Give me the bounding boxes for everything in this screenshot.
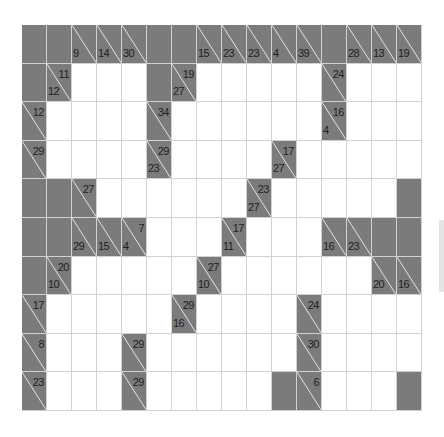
entry-cell[interactable] — [247, 257, 272, 296]
entry-cell[interactable] — [247, 334, 272, 373]
entry-cell[interactable] — [397, 102, 422, 141]
entry-cell[interactable] — [72, 334, 97, 373]
entry-cell[interactable] — [272, 334, 297, 373]
entry-cell[interactable] — [247, 372, 272, 411]
entry-cell[interactable] — [347, 334, 372, 373]
entry-cell[interactable] — [97, 102, 122, 141]
entry-cell[interactable] — [97, 372, 122, 411]
entry-cell[interactable] — [97, 179, 122, 218]
entry-cell[interactable] — [222, 334, 247, 373]
entry-cell[interactable] — [47, 295, 72, 334]
entry-cell[interactable] — [347, 141, 372, 180]
entry-cell[interactable] — [72, 257, 97, 296]
entry-cell[interactable] — [322, 179, 347, 218]
entry-cell[interactable] — [247, 141, 272, 180]
entry-cell[interactable] — [222, 141, 247, 180]
entry-cell[interactable] — [122, 102, 147, 141]
entry-cell[interactable] — [197, 372, 222, 411]
entry-cell[interactable] — [272, 179, 297, 218]
entry-cell[interactable] — [122, 257, 147, 296]
entry-cell[interactable] — [372, 141, 397, 180]
entry-cell[interactable] — [372, 334, 397, 373]
entry-cell[interactable] — [197, 141, 222, 180]
entry-cell[interactable] — [322, 141, 347, 180]
entry-cell[interactable] — [97, 64, 122, 103]
entry-cell[interactable] — [97, 334, 122, 373]
entry-cell[interactable] — [347, 372, 372, 411]
entry-cell[interactable] — [172, 179, 197, 218]
entry-cell[interactable] — [347, 179, 372, 218]
entry-cell[interactable] — [322, 372, 347, 411]
entry-cell[interactable] — [197, 179, 222, 218]
entry-cell[interactable] — [72, 141, 97, 180]
entry-cell[interactable] — [272, 295, 297, 334]
entry-cell[interactable] — [397, 295, 422, 334]
entry-cell[interactable] — [47, 372, 72, 411]
entry-cell[interactable] — [297, 257, 322, 296]
entry-cell[interactable] — [247, 102, 272, 141]
entry-cell[interactable] — [122, 179, 147, 218]
entry-cell[interactable] — [322, 295, 347, 334]
entry-cell[interactable] — [147, 334, 172, 373]
entry-cell[interactable] — [247, 64, 272, 103]
entry-cell[interactable] — [372, 295, 397, 334]
entry-cell[interactable] — [72, 295, 97, 334]
entry-cell[interactable] — [272, 64, 297, 103]
entry-cell[interactable] — [372, 102, 397, 141]
entry-cell[interactable] — [122, 141, 147, 180]
entry-cell[interactable] — [72, 372, 97, 411]
entry-cell[interactable] — [172, 257, 197, 296]
entry-cell[interactable] — [47, 102, 72, 141]
entry-cell[interactable] — [372, 372, 397, 411]
entry-cell[interactable] — [347, 102, 372, 141]
entry-cell[interactable] — [147, 179, 172, 218]
entry-cell[interactable] — [147, 218, 172, 257]
entry-cell[interactable] — [97, 141, 122, 180]
side-scrollbar[interactable] — [439, 220, 444, 292]
entry-cell[interactable] — [147, 257, 172, 296]
entry-cell[interactable] — [172, 218, 197, 257]
entry-cell[interactable] — [172, 334, 197, 373]
entry-cell[interactable] — [147, 372, 172, 411]
entry-cell[interactable] — [222, 179, 247, 218]
entry-cell[interactable] — [172, 102, 197, 141]
entry-cell[interactable] — [297, 141, 322, 180]
entry-cell[interactable] — [222, 295, 247, 334]
entry-cell[interactable] — [347, 295, 372, 334]
entry-cell[interactable] — [97, 257, 122, 296]
entry-cell[interactable] — [272, 218, 297, 257]
entry-cell[interactable] — [197, 218, 222, 257]
entry-cell[interactable] — [72, 64, 97, 103]
entry-cell[interactable] — [397, 334, 422, 373]
entry-cell[interactable] — [197, 295, 222, 334]
entry-cell[interactable] — [222, 102, 247, 141]
entry-cell[interactable] — [47, 334, 72, 373]
entry-cell[interactable] — [122, 295, 147, 334]
entry-cell[interactable] — [222, 257, 247, 296]
entry-cell[interactable] — [297, 218, 322, 257]
entry-cell[interactable] — [72, 102, 97, 141]
entry-cell[interactable] — [222, 372, 247, 411]
entry-cell[interactable] — [172, 141, 197, 180]
entry-cell[interactable] — [47, 141, 72, 180]
entry-cell[interactable] — [297, 179, 322, 218]
entry-cell[interactable] — [347, 257, 372, 296]
entry-cell[interactable] — [272, 102, 297, 141]
entry-cell[interactable] — [372, 64, 397, 103]
entry-cell[interactable] — [197, 334, 222, 373]
entry-cell[interactable] — [222, 64, 247, 103]
entry-cell[interactable] — [297, 102, 322, 141]
entry-cell[interactable] — [197, 102, 222, 141]
entry-cell[interactable] — [247, 295, 272, 334]
entry-cell[interactable] — [322, 257, 347, 296]
entry-cell[interactable] — [372, 179, 397, 218]
entry-cell[interactable] — [247, 218, 272, 257]
entry-cell[interactable] — [272, 257, 297, 296]
entry-cell[interactable] — [122, 64, 147, 103]
entry-cell[interactable] — [322, 334, 347, 373]
entry-cell[interactable] — [147, 295, 172, 334]
entry-cell[interactable] — [197, 64, 222, 103]
entry-cell[interactable] — [172, 372, 197, 411]
entry-cell[interactable] — [97, 295, 122, 334]
entry-cell[interactable] — [397, 64, 422, 103]
